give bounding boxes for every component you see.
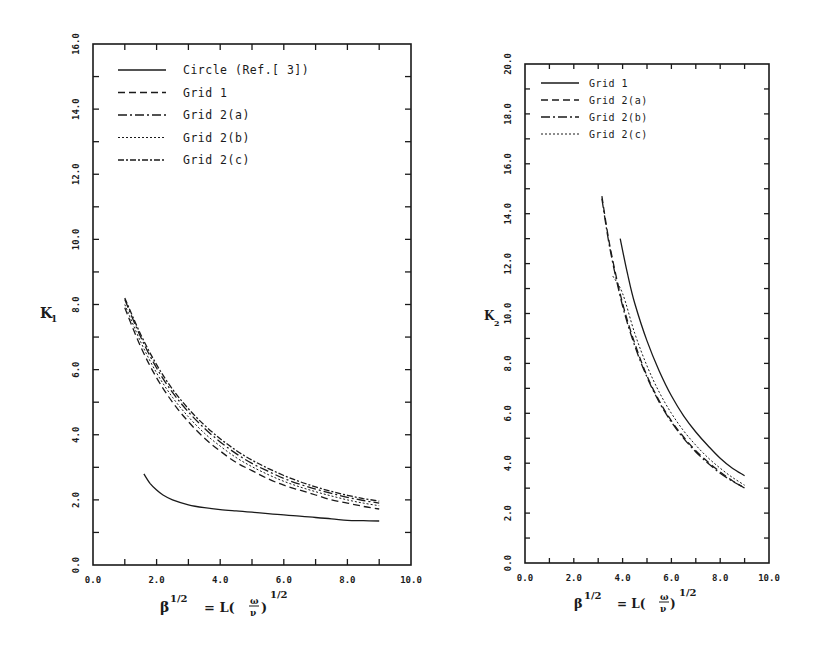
left-axis-ticks xyxy=(93,44,411,565)
right-curves xyxy=(602,196,745,488)
x-tick-label: 10.0 xyxy=(758,573,780,583)
left-xlabel-exp: 1/2 xyxy=(170,593,188,604)
left-plot-frame xyxy=(93,44,411,565)
legend-label: Grid 1 xyxy=(183,86,228,100)
legend-item-grid-2-c: Grid 2(c) xyxy=(118,153,250,167)
y-tick-label: 8.0 xyxy=(71,296,81,312)
left-legend: Circle (Ref.[ 3])Grid 1Grid 2(a)Grid 2(b… xyxy=(118,63,309,167)
curve-grid-2-a xyxy=(125,300,379,504)
y-tick-label: 0.0 xyxy=(503,555,513,571)
right-chart-k2: 0.02.04.06.08.010.00.02.04.06.08.010.012… xyxy=(484,53,780,614)
x-tick-label: 8.0 xyxy=(339,575,355,585)
y-tick-label: 4.0 xyxy=(503,455,513,471)
curve-grid-2-a xyxy=(602,196,745,488)
y-tick-label: 4.0 xyxy=(71,427,81,443)
y-tick-label: 16.0 xyxy=(503,153,513,175)
curve-grid-2-b xyxy=(602,199,745,488)
curve-grid-2-c xyxy=(613,276,745,485)
legend-label: Grid 2(b) xyxy=(589,112,648,123)
right-xlabel-beta: β xyxy=(574,596,583,611)
y-tick-label: 18.0 xyxy=(503,103,513,125)
legend-item-grid-1: Grid 1 xyxy=(118,86,228,100)
legend-label: Grid 2(a) xyxy=(589,95,648,106)
y-tick-label: 2.0 xyxy=(503,505,513,521)
legend-item-grid-2-a: Grid 2(a) xyxy=(541,95,648,106)
x-tick-label: 6.0 xyxy=(276,575,292,585)
x-tick-label: 2.0 xyxy=(148,575,164,585)
right-xlabel-num: ω xyxy=(660,592,669,602)
legend-item-grid-2-b: Grid 2(b) xyxy=(541,112,648,123)
y-tick-label: 6.0 xyxy=(71,361,81,377)
x-tick-label: 4.0 xyxy=(212,575,228,585)
legend-label: Grid 1 xyxy=(589,78,628,89)
legend-label: Circle (Ref.[ 3]) xyxy=(183,63,309,77)
x-tick-label: 2.0 xyxy=(566,573,582,583)
x-tick-label: 0.0 xyxy=(517,573,533,583)
left-xlabel-beta: β xyxy=(160,599,169,615)
left-xlabel-num: ω xyxy=(250,596,259,606)
legend-item-circle-ref-3: Circle (Ref.[ 3]) xyxy=(118,63,309,77)
left-xlabel-eq: = L( xyxy=(204,600,235,615)
y-tick-label: 12.0 xyxy=(503,253,513,275)
curve-grid-2-b xyxy=(125,305,379,506)
legend-label: Grid 2(b) xyxy=(183,131,250,145)
y-tick-label: 20.0 xyxy=(503,53,513,75)
legend-item-grid-1: Grid 1 xyxy=(541,78,628,89)
right-xlabel-eq: = L( xyxy=(617,597,646,611)
curve-circle-ref-3 xyxy=(144,474,379,521)
legend-label: Grid 2(c) xyxy=(589,129,648,140)
legend-item-grid-2-c: Grid 2(c) xyxy=(541,129,648,140)
y-tick-label: 8.0 xyxy=(503,355,513,371)
figure: 0.02.04.06.08.010.00.02.04.06.08.010.012… xyxy=(0,0,813,655)
y-tick-label: 12.0 xyxy=(71,163,81,185)
chart-canvas: 0.02.04.06.08.010.00.02.04.06.08.010.012… xyxy=(0,0,813,655)
left-xlabel-den: ν xyxy=(250,608,256,618)
legend-item-grid-2-b: Grid 2(b) xyxy=(118,131,250,145)
x-tick-label: 4.0 xyxy=(614,573,630,583)
x-tick-label: 8.0 xyxy=(712,573,728,583)
y-tick-label: 10.0 xyxy=(503,303,513,325)
y-tick-label: 2.0 xyxy=(71,492,81,508)
right-ylabel-sub: 2 xyxy=(494,318,500,328)
y-tick-label: 6.0 xyxy=(503,405,513,421)
curve-grid-1 xyxy=(620,239,744,476)
right-xlabel-exp2: 1/2 xyxy=(679,587,697,598)
y-tick-label: 10.0 xyxy=(71,229,81,251)
left-y-axis-label: K 1 xyxy=(40,305,57,324)
right-xlabel-exp: 1/2 xyxy=(584,590,602,601)
left-ylabel-sub: 1 xyxy=(51,314,57,324)
y-tick-label: 14.0 xyxy=(71,98,81,120)
y-tick-label: 0.0 xyxy=(71,557,81,573)
right-xlabel-close: ) xyxy=(670,597,676,611)
left-xlabel-exp2: 1/2 xyxy=(270,589,288,600)
y-tick-label: 14.0 xyxy=(503,203,513,225)
curve-grid-1 xyxy=(125,308,379,509)
legend-label: Grid 2(c) xyxy=(183,153,250,167)
legend-label: Grid 2(a) xyxy=(183,108,250,122)
legend-item-grid-2-a: Grid 2(a) xyxy=(118,108,250,122)
left-axes-box xyxy=(93,44,411,565)
x-tick-label: 0.0 xyxy=(85,575,101,585)
right-y-axis-label: K 2 xyxy=(484,309,500,328)
right-xlabel-den: ν xyxy=(660,604,666,614)
x-tick-label: 6.0 xyxy=(663,573,679,583)
right-legend: Grid 1Grid 2(a)Grid 2(b)Grid 2(c) xyxy=(541,78,648,140)
x-tick-label: 10.0 xyxy=(400,575,422,585)
y-tick-label: 16.0 xyxy=(71,33,81,55)
left-x-axis-label: β 1/2 = L( ω ν ) 1/2 xyxy=(160,589,288,618)
left-xlabel-close: ) xyxy=(261,600,267,615)
left-chart-k1: 0.02.04.06.08.010.00.02.04.06.08.010.012… xyxy=(40,33,422,618)
right-x-axis-label: β 1/2 = L( ω ν ) 1/2 xyxy=(574,587,697,614)
left-curves xyxy=(125,298,379,521)
